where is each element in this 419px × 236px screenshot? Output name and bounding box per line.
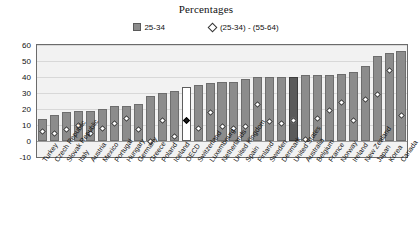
y-tick-label: -10 [19, 153, 31, 162]
legend-label-1: (25-34) - (55-64) [220, 23, 279, 32]
data-marker [374, 91, 381, 98]
data-marker [362, 96, 369, 103]
legend-label-0: 25-34 [144, 23, 164, 32]
y-tick-label: 30 [22, 89, 31, 98]
y-tick-label: 10 [22, 121, 31, 130]
data-marker [171, 133, 178, 140]
data-marker [290, 117, 297, 124]
chart-legend: 25-34 (25-34) - (55-64) [0, 20, 412, 34]
data-marker [254, 101, 261, 108]
data-marker [338, 99, 345, 106]
y-tick-label: 40 [22, 73, 31, 82]
legend-entry-difference: (25-34) - (55-64) [209, 23, 279, 32]
data-marker [99, 125, 106, 132]
data-marker [63, 126, 70, 133]
legend-square-icon [133, 23, 141, 31]
data-marker [266, 118, 273, 125]
x-axis: TurkeyCzech RepublicSlovak RepublicItaly… [36, 159, 408, 236]
data-marker [183, 117, 190, 124]
data-marker [51, 129, 58, 136]
data-marker [397, 112, 404, 119]
data-marker [207, 109, 214, 116]
data-marker [159, 117, 166, 124]
y-tick-label: 0 [27, 137, 31, 146]
data-marker [135, 126, 142, 133]
y-tick-label: 60 [22, 41, 31, 50]
data-marker [350, 117, 357, 124]
legend-entry-25-34: 25-34 [133, 23, 164, 32]
legend-diamond-icon [207, 22, 217, 32]
data-marker [111, 120, 118, 127]
chart-title: Percentages [0, 3, 412, 15]
data-marker [123, 115, 130, 122]
data-marker [39, 128, 46, 135]
y-axis: 6050403020100-10 [0, 44, 34, 160]
y-tick-label: 20 [22, 105, 31, 114]
data-marker [195, 125, 202, 132]
data-marker [218, 123, 225, 130]
data-marker [386, 67, 393, 74]
y-tick-label: 50 [22, 57, 31, 66]
data-marker [326, 107, 333, 114]
data-marker [278, 120, 285, 127]
data-marker [314, 115, 321, 122]
